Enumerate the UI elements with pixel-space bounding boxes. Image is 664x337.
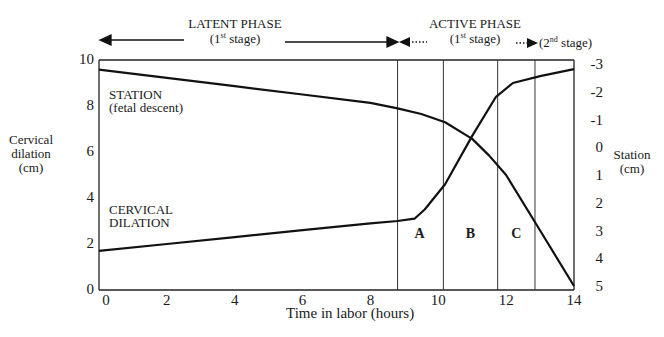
- station-series-label-line2: (fetal descent): [109, 101, 183, 115]
- right-y-tick-label: -1: [583, 112, 603, 128]
- right-y-tick-label: 0: [583, 139, 603, 155]
- phase-divider-lines: [398, 60, 535, 290]
- x-tick-label: 4: [220, 292, 250, 308]
- right-y-tick-label: -2: [583, 84, 603, 100]
- active-sub-tail: stage): [466, 31, 500, 46]
- region-label-c: C: [506, 226, 526, 242]
- left-y-tick-label: 6: [68, 143, 94, 159]
- right-y-tick-label: 5: [583, 278, 603, 294]
- latent-phase-title: LATENT PHASE: [185, 17, 285, 31]
- labor-progress-chart: [0, 0, 664, 337]
- left-axis-title-line2: dilation: [5, 147, 57, 161]
- left-y-tick-label: 0: [68, 281, 94, 297]
- left-axis-title-line1: Cervical: [5, 133, 57, 147]
- x-tick-label: 2: [152, 292, 182, 308]
- latent-phase-subtitle: (1st stage): [185, 32, 285, 46]
- left-y-tick-label: 10: [68, 51, 94, 67]
- second-sub-sup: nd: [550, 35, 558, 44]
- right-y-tick-label: -3: [583, 56, 603, 72]
- second-sub-base: (2: [539, 35, 550, 50]
- left-y-tick-label: 4: [68, 189, 94, 205]
- region-label-a: A: [410, 226, 430, 242]
- active-phase-subtitle: (1st stage): [420, 32, 530, 46]
- right-y-tick-label: 3: [583, 223, 603, 239]
- right-axis-title-line2: (cm): [604, 162, 660, 176]
- x-tick-label: 8: [355, 292, 385, 308]
- second-sub-tail: stage): [558, 35, 592, 50]
- left-y-tick-label: 2: [68, 235, 94, 251]
- left-axis-title-line3: (cm): [5, 161, 57, 175]
- latent-sub-base: (1: [210, 31, 221, 46]
- active-phase-title: ACTIVE PHASE: [420, 17, 530, 31]
- plot-frame: [99, 60, 574, 290]
- x-tick-label: 10: [423, 292, 453, 308]
- latent-sub-tail: stage): [226, 31, 260, 46]
- right-y-tick-label: 1: [583, 167, 603, 183]
- left-axis-title: Cervical dilation (cm): [5, 133, 57, 175]
- x-tick-label: 6: [288, 292, 318, 308]
- right-y-tick-label: 2: [583, 195, 603, 211]
- region-label-b: B: [461, 226, 481, 242]
- right-axis-title: Station (cm): [604, 148, 660, 176]
- x-tick-label: 0: [91, 292, 121, 308]
- x-tick-label: 12: [491, 292, 521, 308]
- active-sub-base: (1: [450, 31, 461, 46]
- right-y-tick-label: 4: [583, 250, 603, 266]
- left-y-tick-label: 8: [68, 97, 94, 113]
- second-stage-label: (2nd stage): [539, 36, 592, 50]
- dilation-series-label-line2: DILATION: [109, 216, 170, 230]
- x-tick-label: 14: [559, 292, 589, 308]
- cervical-dilation-curve: [99, 69, 574, 251]
- right-axis-title-line1: Station: [604, 148, 660, 162]
